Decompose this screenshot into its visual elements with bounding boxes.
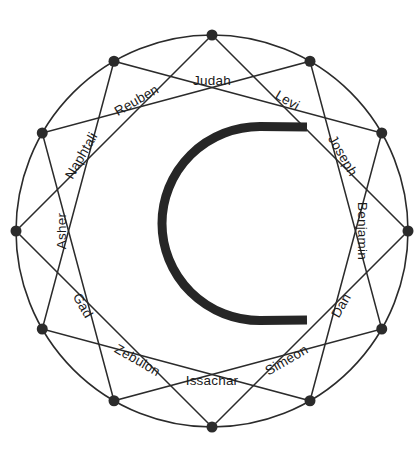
twelve-tribes-diagram: JudahLeviJosephBenjaminDanSimeonIssachar… [0, 0, 420, 452]
outer-circle [16, 35, 408, 427]
tribe-labels: JudahLeviJosephBenjaminDanSimeonIssachar… [54, 73, 371, 388]
vertex-dot-zebulon [109, 395, 120, 406]
vertex-dot-simeon [305, 395, 316, 406]
tribe-label-issachar: Issachar [186, 373, 239, 388]
tribe-label-dan: Dan [328, 291, 354, 320]
vertex-dot-dan [376, 324, 387, 335]
tribe-label-asher: Asher [54, 213, 69, 250]
tribe-label-judah: Judah [193, 73, 231, 88]
star-square-1 [42, 61, 381, 400]
tribe-label-naphtali: Naphtali [62, 130, 101, 182]
diagram-canvas: JudahLeviJosephBenjaminDanSimeonIssachar… [0, 0, 420, 452]
thick-c-curve [162, 127, 307, 321]
vertex-dot-issachar [207, 422, 218, 433]
tribe-label-benjamin: Benjamin [355, 202, 370, 260]
vertex-dot-levi [305, 56, 316, 67]
vertex-dot-benjamin [403, 226, 414, 237]
star-square-2 [42, 61, 381, 400]
tribe-label-joseph: Joseph [325, 132, 360, 178]
diagram-root: JudahLeviJosephBenjaminDanSimeonIssachar… [11, 30, 414, 433]
vertex-dot-reuben [109, 56, 120, 67]
vertex-dot-joseph [376, 128, 387, 139]
tribe-label-zebulon: Zebulon [112, 341, 163, 379]
tribe-label-simeon: Simeon [262, 342, 310, 378]
star-polygon-lines [16, 35, 408, 427]
vertex-dot-asher [11, 226, 22, 237]
tribe-label-reuben: Reuben [112, 82, 162, 119]
star-square-0 [16, 35, 408, 427]
tribe-label-levi: Levi [273, 87, 303, 113]
vertex-dot-gad [37, 324, 48, 335]
vertex-dot-naphtali [37, 128, 48, 139]
vertex-dot-judah [207, 30, 218, 41]
